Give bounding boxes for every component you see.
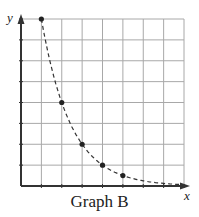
data-point: [120, 173, 125, 178]
data-point: [100, 163, 105, 168]
data-point: [39, 16, 44, 21]
graph-b-chart: y x: [0, 0, 199, 217]
graph-caption: Graph B: [0, 192, 199, 212]
data-point: [80, 142, 85, 147]
data-point: [59, 100, 64, 105]
grid: [19, 19, 184, 188]
y-axis-label: y: [5, 10, 13, 25]
